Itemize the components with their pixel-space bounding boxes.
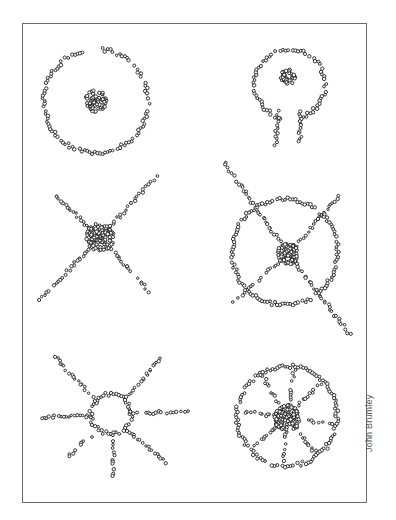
figure-wheel	[234, 363, 339, 469]
figure-circle-with-cross	[223, 161, 352, 335]
artist-credit: John Brumley	[364, 382, 376, 452]
figure-keyhole	[252, 48, 328, 146]
figure-x-cross	[38, 175, 159, 302]
figure-circle-with-center	[41, 47, 151, 156]
bead-figures	[0, 0, 396, 520]
figure-sun	[41, 355, 190, 477]
